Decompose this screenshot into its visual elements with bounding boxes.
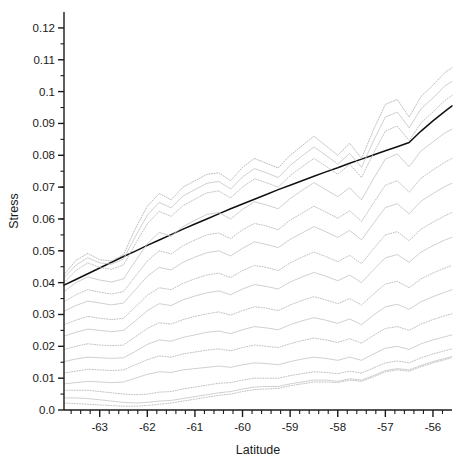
- x-tick-label: -60: [234, 421, 251, 433]
- y-tick-label: 0.04: [33, 277, 56, 289]
- series-quantile-11: [64, 129, 452, 291]
- series-quantile-3: [64, 335, 452, 384]
- series-quantile-2: [64, 349, 452, 395]
- chart-canvas: 0.00.010.020.030.040.050.060.070.080.090…: [0, 0, 459, 470]
- x-tick-label: -62: [139, 421, 156, 433]
- series-quantile-1: [64, 357, 452, 403]
- y-tick-label: 0.01: [33, 372, 55, 384]
- x-tick-label: -59: [282, 421, 299, 433]
- series-quantile-8: [64, 213, 452, 325]
- y-tick-label: 0.09: [33, 117, 55, 129]
- y-tick-label: 0.11: [33, 54, 55, 66]
- y-tick-label: 0.07: [33, 181, 55, 193]
- y-tick-label: 0.06: [33, 213, 55, 225]
- series-trend: [64, 106, 452, 285]
- series-quantile-14: [64, 68, 452, 275]
- y-tick-label: 0.12: [33, 22, 55, 34]
- x-tick-label: -61: [187, 421, 204, 433]
- series-quantile-5: [64, 290, 452, 362]
- stress-latitude-chart: 0.00.010.020.030.040.050.060.070.080.090…: [0, 0, 459, 470]
- y-axis-title: Stress: [7, 193, 21, 228]
- y-tick-label: 0.05: [33, 245, 55, 257]
- series-quantile-12: [64, 95, 452, 282]
- x-tick-label: -63: [91, 421, 108, 433]
- x-tick-label: -57: [377, 421, 394, 433]
- quantile-curves: [64, 68, 452, 406]
- series-quantile-4: [64, 314, 452, 373]
- y-tick-label: 0.0: [39, 404, 55, 416]
- series-quantile-7: [64, 237, 452, 336]
- x-tick-label: -56: [425, 421, 442, 433]
- y-tick-label: 0.1: [39, 86, 55, 98]
- y-tick-label: 0.02: [33, 340, 55, 352]
- y-tick-label: 0.03: [33, 308, 55, 320]
- y-tick-label: 0.08: [33, 149, 55, 161]
- axes-layer: [58, 12, 452, 417]
- x-axis-title: Latitude: [236, 443, 281, 457]
- series-quantile-6: [64, 265, 452, 349]
- tick-labels-layer: 0.00.010.020.030.040.050.060.070.080.090…: [33, 22, 442, 433]
- x-tick-label: -58: [329, 421, 346, 433]
